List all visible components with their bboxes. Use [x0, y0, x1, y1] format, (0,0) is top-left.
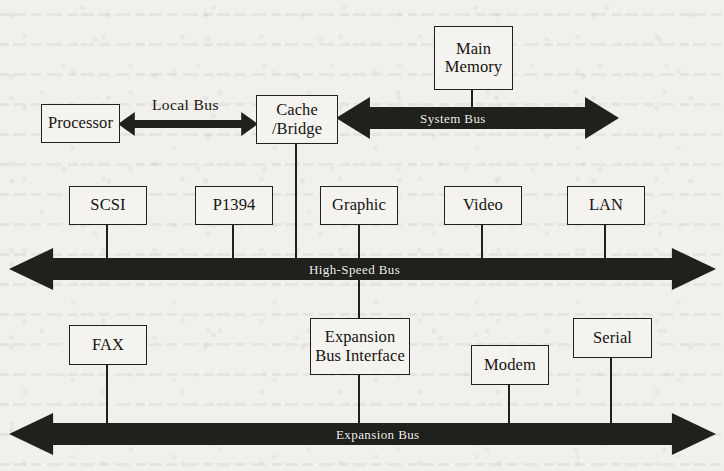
node-fax: FAX: [69, 325, 147, 365]
node-label: MainMemory: [441, 40, 506, 77]
node-serial: Serial: [573, 318, 652, 358]
bus-architecture-diagram: Local BusSystem BusHigh-Speed BusExpansi…: [0, 0, 724, 471]
page-showthrough-texture: [0, 0, 724, 471]
node-label: FAX: [88, 336, 128, 354]
node-label: SCSI: [86, 196, 129, 214]
node-lan: LAN: [567, 186, 645, 225]
node-scsi: SCSI: [69, 186, 147, 225]
node-label: Graphic: [328, 196, 390, 214]
bus-label-system-bus: System Bus: [420, 111, 486, 127]
bus-label-expansion-bus: Expansion Bus: [336, 427, 420, 443]
node-cache-bridge: Cache/Bridge: [256, 95, 338, 144]
node-label: Processor: [44, 114, 117, 132]
node-label: Video: [459, 196, 507, 214]
node-label: Modem: [480, 356, 540, 374]
node-main-memory: MainMemory: [434, 26, 513, 90]
node-label: ExpansionBus Interface: [311, 328, 409, 365]
bus-label-local-bus: Local Bus: [152, 96, 219, 114]
node-label: LAN: [585, 196, 627, 214]
node-p1394: P1394: [195, 186, 273, 225]
node-modem: Modem: [471, 345, 549, 385]
node-expansion-bus-interface: ExpansionBus Interface: [310, 318, 410, 375]
bus-label-high-speed-bus: High-Speed Bus: [309, 262, 400, 278]
paper-grain-texture: [0, 0, 724, 471]
bus-arrow-local-bus: [118, 112, 258, 136]
node-label: Cache/Bridge: [268, 101, 326, 138]
node-label: P1394: [209, 196, 260, 214]
node-label: Serial: [589, 329, 636, 347]
node-graphic: Graphic: [320, 186, 398, 225]
node-video: Video: [444, 186, 522, 225]
node-processor: Processor: [41, 104, 120, 143]
